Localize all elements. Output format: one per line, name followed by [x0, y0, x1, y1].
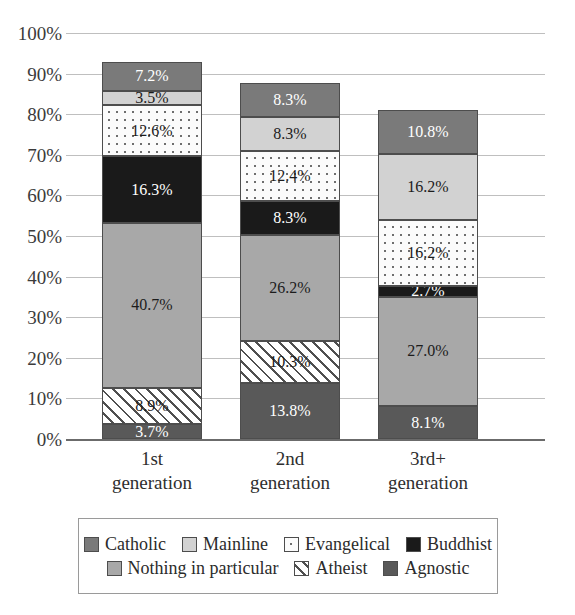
x-axis-category-label: 3rd+generation	[353, 447, 503, 495]
bar-segment[interactable]: 16.3%	[102, 156, 202, 222]
x-axis-category-label: 1stgeneration	[77, 447, 227, 495]
y-axis-tick-label: 40%	[2, 268, 62, 287]
bar-segment[interactable]: 7.2%	[102, 62, 202, 91]
bar-segment[interactable]: 8.3%	[240, 201, 340, 235]
legend-label: Buddhist	[427, 535, 492, 553]
bar-segment[interactable]: 12.6%	[102, 105, 202, 156]
bar-segment[interactable]: 13.8%	[240, 383, 340, 439]
bar-segment[interactable]: 8.9%	[102, 388, 202, 424]
x-axis-category-label-line: 2nd	[215, 447, 365, 471]
bar-segment-value-label: 7.2%	[135, 68, 168, 84]
legend-label: Atheist	[315, 559, 367, 577]
legend-item[interactable]: Evangelical	[284, 535, 390, 553]
legend-item[interactable]: Nothing in particular	[107, 559, 279, 577]
bar-segment-value-label: 2.7%	[411, 286, 444, 297]
y-axis-tick-label: 0%	[2, 430, 62, 449]
legend-item[interactable]: Buddhist	[406, 535, 492, 553]
y-axis-tick-label: 10%	[2, 389, 62, 408]
bar-group[interactable]: 3.7%8.9%40.7%16.3%12.6%3.5%7.2%	[102, 33, 202, 439]
bar-segment-value-label: 40.7%	[131, 297, 172, 313]
bar-segment[interactable]: 27.0%	[378, 297, 478, 407]
bar-segment[interactable]: 8.3%	[240, 83, 340, 117]
legend-item[interactable]: Catholic	[84, 535, 166, 553]
bar-segment-value-label: 3.5%	[135, 91, 168, 105]
bar-segment[interactable]: 26.2%	[240, 235, 340, 341]
x-axis-category-label-line: generation	[215, 471, 365, 495]
x-axis-category-label-line: 3rd+	[353, 447, 503, 471]
y-axis-tick-labels: 100%90%80%70%60%50%40%30%20%10%0%	[0, 33, 62, 439]
x-axis-category-label-line: generation	[77, 471, 227, 495]
chart-legend: CatholicMainlineEvangelicalBuddhistNothi…	[78, 518, 498, 594]
legend-row: CatholicMainlineEvangelicalBuddhist	[84, 535, 492, 553]
bar-segment[interactable]: 3.5%	[102, 91, 202, 105]
y-axis-tick-label: 50%	[2, 227, 62, 246]
legend-swatch-icon	[383, 561, 398, 576]
legend-swatch-icon	[284, 537, 299, 552]
legend-item[interactable]: Agnostic	[383, 559, 469, 577]
legend-swatch-icon	[107, 561, 122, 576]
bar-segment-value-label: 26.2%	[269, 280, 310, 296]
legend-row: Nothing in particularAtheistAgnostic	[107, 559, 470, 577]
legend-item[interactable]: Mainline	[182, 535, 268, 553]
bar-segment-value-label: 12.4%	[269, 168, 310, 184]
bar-segment-value-label: 8.9%	[135, 398, 168, 414]
bar-segment-value-label: 3.7%	[135, 424, 168, 439]
x-axis-category-label-line: generation	[353, 471, 503, 495]
bar-segment-value-label: 10.8%	[407, 124, 448, 140]
bar-segment-value-label: 16.2%	[407, 179, 448, 195]
chart-title	[0, 0, 575, 2]
bar-segment-value-label: 12.6%	[131, 123, 172, 139]
y-axis-tick-label: 30%	[2, 308, 62, 327]
bar-segment[interactable]: 10.3%	[240, 341, 340, 383]
y-axis-tick-label: 60%	[2, 186, 62, 205]
y-axis-tick-label: 20%	[2, 349, 62, 368]
bar-segment-value-label: 8.3%	[273, 92, 306, 108]
legend-item[interactable]: Atheist	[294, 559, 367, 577]
legend-swatch-icon	[294, 561, 309, 576]
bar-segment[interactable]: 2.7%	[378, 286, 478, 297]
stacked-bar-chart: 100%90%80%70%60%50%40%30%20%10%0% 3.7%8.…	[0, 0, 575, 615]
legend-label: Evangelical	[305, 535, 390, 553]
x-axis-category-label-line: 1st	[77, 447, 227, 471]
y-axis-tick-label: 80%	[2, 105, 62, 124]
bar-segment-value-label: 16.2%	[407, 245, 448, 261]
bar-group[interactable]: 8.1%27.0%2.7%16.2%16.2%10.8%	[378, 33, 478, 439]
bar-segment[interactable]: 10.8%	[378, 110, 478, 154]
bar-segment-value-label: 16.3%	[131, 182, 172, 198]
legend-label: Nothing in particular	[128, 559, 279, 577]
bar-segment[interactable]: 16.2%	[378, 220, 478, 286]
y-axis-tick-label: 100%	[2, 24, 62, 43]
bar-segment-value-label: 10.3%	[269, 354, 310, 370]
bar-segment[interactable]: 16.2%	[378, 154, 478, 220]
bar-segment-value-label: 27.0%	[407, 343, 448, 359]
legend-swatch-icon	[182, 537, 197, 552]
bar-segment[interactable]: 3.7%	[102, 424, 202, 439]
legend-label: Agnostic	[404, 559, 469, 577]
plot-area: 3.7%8.9%40.7%16.3%12.6%3.5%7.2%13.8%10.3…	[66, 33, 545, 439]
bar-segment-value-label: 8.1%	[411, 415, 444, 431]
x-axis-line	[66, 439, 545, 441]
legend-label: Mainline	[203, 535, 268, 553]
bar-segment-value-label: 8.3%	[273, 210, 306, 226]
y-axis-tick-label: 90%	[2, 65, 62, 84]
bar-segment[interactable]: 40.7%	[102, 223, 202, 388]
bar-segment[interactable]: 12.4%	[240, 151, 340, 201]
bar-group[interactable]: 13.8%10.3%26.2%8.3%12.4%8.3%8.3%	[240, 33, 340, 439]
x-axis-category-label: 2ndgeneration	[215, 447, 365, 495]
bar-segment[interactable]: 8.3%	[240, 117, 340, 151]
y-axis-tick-label: 70%	[2, 146, 62, 165]
bar-segment-value-label: 8.3%	[273, 126, 306, 142]
bar-segment-value-label: 13.8%	[269, 403, 310, 419]
legend-swatch-icon	[406, 537, 421, 552]
legend-swatch-icon	[84, 537, 99, 552]
bar-segment[interactable]: 8.1%	[378, 406, 478, 439]
legend-label: Catholic	[105, 535, 166, 553]
